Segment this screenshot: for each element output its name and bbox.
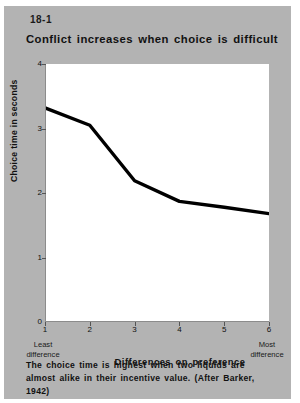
- x-tick-label: 5: [216, 325, 232, 334]
- chart-plot: 01234 123456 Choice time in seconds Diff…: [45, 64, 269, 322]
- x-tick-label: 4: [171, 325, 187, 334]
- x-tick-mark: [45, 322, 46, 326]
- figure-title: Conflict increases when choice is diffic…: [26, 33, 276, 45]
- x-tick-mark: [135, 322, 136, 326]
- y-tick-label: 3: [24, 124, 42, 133]
- y-tick-mark: [42, 129, 46, 130]
- x-axis-left-note: Least difference: [3, 340, 83, 360]
- y-tick-label: 1: [24, 253, 42, 262]
- chart-svg: [45, 64, 269, 322]
- x-tick-label: 2: [82, 325, 98, 334]
- x-axis-right-note: Most difference: [227, 340, 300, 360]
- figure-number: 18-1: [30, 14, 52, 25]
- x-tick-label: 6: [261, 325, 277, 334]
- y-axis-label: Choice time in seconds: [9, 79, 19, 182]
- figure-caption: The choice time is highest when two liqu…: [26, 359, 274, 398]
- y-tick-mark: [42, 64, 46, 65]
- x-axis-right-note-line1: Most: [227, 340, 300, 350]
- y-tick-mark: [42, 193, 46, 194]
- x-tick-mark: [179, 322, 180, 326]
- y-tick-label: 4: [24, 59, 42, 68]
- figure-card: 18-1 Conflict increases when choice is d…: [4, 6, 291, 399]
- x-axis-left-note-line1: Least: [3, 340, 83, 350]
- x-tick-mark: [90, 322, 91, 326]
- data-series-line: [45, 108, 269, 214]
- y-tick-label: 2: [24, 188, 42, 197]
- y-tick-mark: [42, 258, 46, 259]
- x-tick-label: 3: [127, 325, 143, 334]
- x-tick-mark: [224, 322, 225, 326]
- x-tick-mark: [269, 322, 270, 326]
- x-tick-label: 1: [37, 325, 53, 334]
